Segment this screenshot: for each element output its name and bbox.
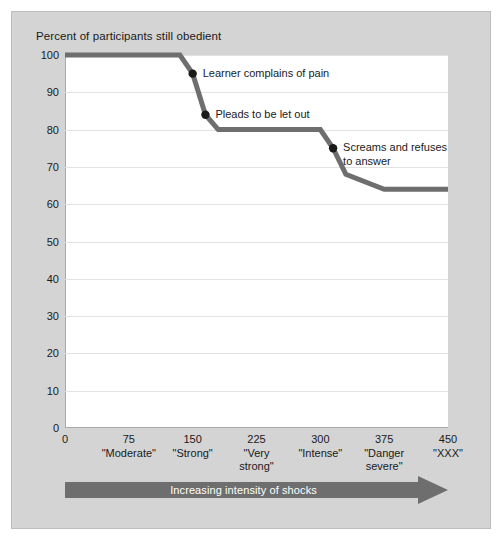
x-axis-tick-label: 75"Moderate" bbox=[102, 433, 156, 460]
x-tick-value: 300 bbox=[311, 433, 329, 445]
y-axis-tick-label: 20 bbox=[47, 347, 59, 359]
data-point-marker bbox=[329, 144, 337, 152]
x-tick-value: 375 bbox=[375, 433, 393, 445]
x-tick-category: "Intense" bbox=[298, 447, 342, 460]
x-tick-value: 75 bbox=[123, 433, 135, 445]
x-tick-category: "Strong" bbox=[173, 447, 213, 460]
y-axis-tick-label: 0 bbox=[53, 422, 59, 434]
x-tick-category: "Moderate" bbox=[102, 447, 156, 460]
y-axis-tick-label: 60 bbox=[47, 198, 59, 210]
chart-title: Percent of participants still obedient bbox=[36, 30, 221, 42]
x-tick-category: "Danger severe" bbox=[364, 447, 404, 473]
y-axis-tick-label: 50 bbox=[47, 236, 59, 248]
y-axis-tick-label: 10 bbox=[47, 385, 59, 397]
x-axis-tick-label: 0 bbox=[62, 433, 68, 446]
chart-annotation: Screams and refuses to answer bbox=[343, 140, 447, 168]
y-axis-tick-label: 80 bbox=[47, 124, 59, 136]
x-tick-value: 0 bbox=[62, 433, 68, 445]
y-axis-tick-label: 100 bbox=[41, 49, 59, 61]
x-axis-tick-label: 225"Very strong" bbox=[239, 433, 273, 473]
intensity-arrow: Increasing intensity of shocks bbox=[65, 475, 448, 505]
arrow-label: Increasing intensity of shocks bbox=[65, 475, 448, 505]
x-axis-tick-label: 450"XXX" bbox=[433, 433, 463, 460]
data-point-marker bbox=[201, 110, 209, 118]
x-axis-tick-label: 150"Strong" bbox=[173, 433, 213, 460]
x-tick-category: "XXX" bbox=[433, 447, 463, 460]
data-point-marker bbox=[188, 69, 196, 77]
chart-annotation: Learner complains of pain bbox=[203, 66, 330, 80]
x-tick-category: "Very strong" bbox=[239, 447, 273, 473]
x-tick-value: 225 bbox=[247, 433, 265, 445]
y-axis-tick-label: 70 bbox=[47, 161, 59, 173]
y-axis-tick-label: 40 bbox=[47, 273, 59, 285]
x-axis-tick-label: 375"Danger severe" bbox=[364, 433, 404, 473]
x-tick-value: 450 bbox=[439, 433, 457, 445]
x-tick-value: 150 bbox=[183, 433, 201, 445]
y-axis-tick-label: 30 bbox=[47, 310, 59, 322]
figure-card: Percent of participants still obedient 0… bbox=[11, 11, 491, 529]
plot-area: 0102030405060708090100 075"Moderate"150"… bbox=[65, 55, 448, 428]
x-axis-tick-label: 300"Intense" bbox=[298, 433, 342, 460]
y-axis-tick-label: 90 bbox=[47, 86, 59, 98]
chart-annotation: Pleads to be let out bbox=[215, 107, 309, 121]
